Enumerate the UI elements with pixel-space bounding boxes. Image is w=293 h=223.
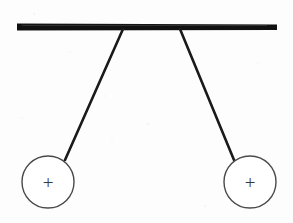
left-sphere-group: + xyxy=(22,156,74,208)
right-sphere-group: + xyxy=(224,156,276,208)
charged-spheres-diagram: + + xyxy=(0,0,293,223)
physics-diagram-canvas: + + xyxy=(0,0,293,223)
support-bar xyxy=(17,24,277,31)
right-sphere-charge-label: + xyxy=(245,172,256,193)
left-sphere-charge-label: + xyxy=(43,172,54,193)
